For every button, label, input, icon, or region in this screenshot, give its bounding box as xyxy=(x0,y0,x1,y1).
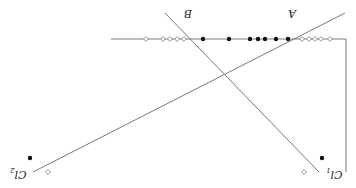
hollow-diamond-marker xyxy=(175,37,180,42)
filled-dot-marker xyxy=(248,37,252,41)
filled-dot-marker xyxy=(263,37,267,41)
label-cl2-main: Cl xyxy=(14,168,26,181)
hollow-diamond-marker xyxy=(300,37,305,42)
label-cl1: Cl1 xyxy=(326,166,342,180)
label-cl1-sub: 1 xyxy=(326,166,330,174)
label-b-text: B xyxy=(184,7,192,20)
hollow-diamond-marker xyxy=(307,37,312,42)
diagram-lines xyxy=(33,13,346,172)
hollow-diamond-marker xyxy=(313,37,318,42)
cl2-filled-dot-marker xyxy=(28,156,32,160)
cl1-hollow-diamond-marker xyxy=(302,170,307,175)
cl1-filled-dot-marker xyxy=(320,156,324,160)
hollow-diamond-marker xyxy=(144,37,149,42)
label-cl1-main: Cl xyxy=(330,168,342,181)
diagram-markers xyxy=(28,37,333,175)
filled-dot-marker xyxy=(274,37,278,41)
label-b: B xyxy=(184,8,192,19)
hollow-diamond-marker xyxy=(328,37,333,42)
hollow-diamond-marker xyxy=(161,37,166,42)
rotated-class-diagram xyxy=(0,0,356,188)
filled-dot-marker xyxy=(227,37,231,41)
hollow-diamond-marker xyxy=(182,37,187,42)
label-cl2-sub: 2 xyxy=(10,166,14,174)
hollow-diamond-marker xyxy=(168,37,173,42)
line-c xyxy=(33,13,345,172)
hollow-diamond-marker xyxy=(319,37,324,42)
filled-dot-marker xyxy=(286,37,290,41)
label-a-text: A xyxy=(288,7,296,20)
label-a: A xyxy=(288,8,296,19)
cl2-hollow-diamond-marker xyxy=(46,170,51,175)
filled-dot-marker xyxy=(201,37,205,41)
filled-dot-marker xyxy=(256,37,260,41)
label-cl2: Cl2 xyxy=(10,166,26,180)
